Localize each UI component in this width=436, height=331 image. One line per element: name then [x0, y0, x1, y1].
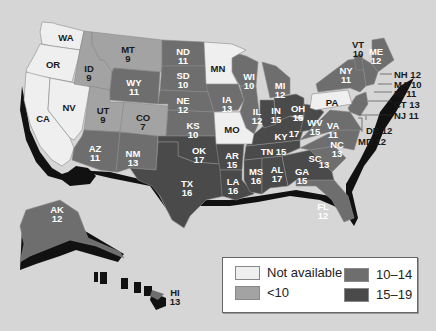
svg-text:13: 13	[128, 157, 139, 168]
svg-text:12: 12	[52, 213, 63, 224]
svg-text:WA: WA	[58, 32, 73, 43]
svg-text:MN: MN	[211, 63, 226, 74]
svg-text:NV: NV	[62, 102, 76, 113]
svg-text:CA: CA	[36, 113, 50, 124]
svg-text:7: 7	[140, 121, 145, 132]
svg-text:10: 10	[188, 129, 199, 140]
svg-text:17: 17	[289, 128, 300, 139]
svg-text:13: 13	[170, 296, 181, 307]
state-AK	[20, 200, 124, 270]
legend-swatch-not-available	[235, 266, 260, 280]
legend-item-not-available: Not available	[235, 265, 342, 280]
svg-text:KY: KY	[274, 131, 288, 142]
svg-text:CT 13: CT 13	[394, 99, 420, 110]
svg-text:9: 9	[125, 53, 130, 64]
svg-text:12: 12	[318, 210, 329, 221]
svg-text:PA: PA	[326, 97, 339, 108]
legend-swatch-15-19	[344, 288, 369, 302]
svg-text:11: 11	[341, 74, 352, 85]
svg-text:10: 10	[353, 48, 364, 59]
legend-item-15-19: 15–19	[344, 287, 412, 302]
svg-text:15: 15	[297, 175, 308, 186]
svg-text:TN: TN	[261, 146, 274, 157]
svg-text:13: 13	[319, 159, 330, 170]
svg-text:12: 12	[252, 115, 263, 126]
svg-text:16: 16	[251, 175, 262, 186]
svg-text:13: 13	[222, 103, 233, 114]
svg-text:11: 11	[90, 152, 101, 163]
svg-text:12: 12	[275, 89, 286, 100]
svg-text:15: 15	[227, 159, 238, 170]
svg-text:16: 16	[182, 187, 193, 198]
state-HI	[94, 272, 166, 310]
legend-swatch-lt10	[235, 286, 260, 300]
svg-text:15: 15	[276, 146, 287, 157]
legend-label: 15–19	[376, 287, 412, 302]
svg-text:12: 12	[178, 104, 189, 115]
legend-swatch-10-14	[344, 268, 369, 282]
svg-text:NJ 11: NJ 11	[394, 110, 420, 121]
svg-text:OR: OR	[46, 59, 60, 70]
svg-text:10: 10	[178, 79, 189, 90]
svg-text:17: 17	[272, 173, 283, 184]
legend-label: Not available	[267, 265, 342, 280]
svg-text:9: 9	[100, 114, 105, 125]
svg-text:12: 12	[371, 55, 382, 66]
svg-text:15: 15	[310, 126, 321, 137]
svg-text:16: 16	[228, 185, 239, 196]
svg-text:15: 15	[293, 112, 304, 123]
legend-item-10-14: 10–14	[344, 267, 412, 282]
svg-text:11: 11	[178, 55, 189, 66]
svg-text:9: 9	[86, 72, 91, 83]
svg-text:11: 11	[129, 86, 140, 97]
legend-item-lt10: <10	[235, 285, 289, 300]
svg-text:15: 15	[271, 114, 282, 125]
legend-label: 10–14	[376, 267, 412, 282]
svg-text:17: 17	[194, 154, 205, 165]
legend: Not available <10 10–14 15–19	[222, 257, 418, 313]
svg-text:RI 11: RI 11	[394, 88, 417, 99]
svg-text:DE 12: DE 12	[366, 125, 392, 136]
svg-text:MD 12: MD 12	[358, 136, 386, 147]
svg-text:MO: MO	[224, 124, 239, 135]
svg-text:13: 13	[332, 148, 343, 159]
legend-label: <10	[267, 285, 289, 300]
svg-text:10: 10	[244, 80, 255, 91]
